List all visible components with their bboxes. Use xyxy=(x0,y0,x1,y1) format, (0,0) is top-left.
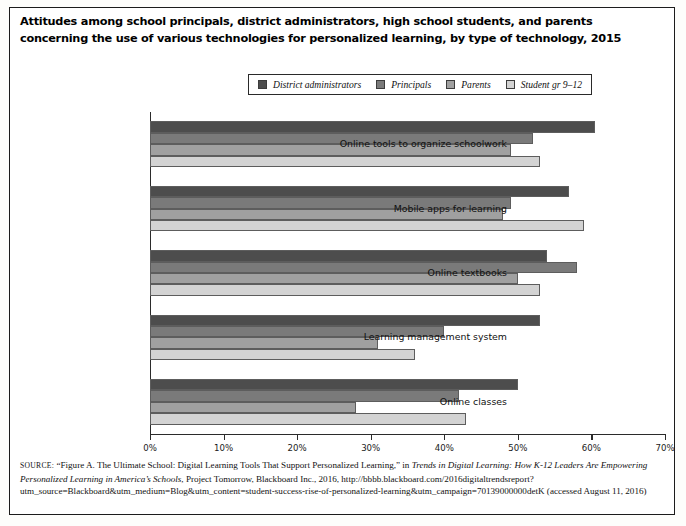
x-axis-tick-label: 40% xyxy=(435,443,454,453)
x-axis-tick-label: 30% xyxy=(361,443,380,453)
bar-4 xyxy=(150,156,540,167)
legend-item-label: Principals xyxy=(391,79,431,90)
legend-swatch-icon xyxy=(376,80,385,89)
source-text-a: “Figure A. The Ultimate School: Digital … xyxy=(56,460,411,470)
legend-item-label: District administrators xyxy=(273,79,361,90)
x-axis-tick-label: 10% xyxy=(214,443,233,453)
bar-1 xyxy=(150,250,547,261)
bar-1 xyxy=(150,379,518,390)
bar-2 xyxy=(150,390,459,401)
chart-legend: District administratorsPrincipalsParents… xyxy=(248,74,592,95)
bar-4 xyxy=(150,413,466,424)
page-title: Attitudes among school principals, distr… xyxy=(20,14,645,47)
legend-item-label: Parents xyxy=(461,79,491,90)
category-label: Learning management system xyxy=(364,331,507,342)
source-note: SOURCE: “Figure A. The Ultimate School: … xyxy=(20,459,652,498)
bar-1 xyxy=(150,315,540,326)
bar-2 xyxy=(150,262,577,273)
bar-group xyxy=(150,370,665,434)
legend-item: Principals xyxy=(376,79,431,90)
category-label: Online tools to organize schoolwork xyxy=(340,138,507,149)
x-axis-tick xyxy=(371,434,372,440)
legend-item: Student gr 9–12 xyxy=(506,79,582,90)
x-axis-tick xyxy=(224,434,225,440)
x-axis-tick xyxy=(297,434,298,440)
x-axis-tick-label: 50% xyxy=(508,443,527,453)
x-axis-tick xyxy=(518,434,519,440)
bar-3 xyxy=(150,337,378,348)
bar-group xyxy=(150,241,665,305)
x-axis-tick-label: 20% xyxy=(288,443,307,453)
bar-4 xyxy=(150,349,415,360)
legend-swatch-icon xyxy=(446,80,455,89)
x-axis-tick xyxy=(665,434,666,440)
legend-item: District administrators xyxy=(258,79,361,90)
legend-item: Parents xyxy=(446,79,491,90)
x-axis-line xyxy=(150,434,665,435)
bar-4 xyxy=(150,220,584,231)
figure-container: Attitudes among school principals, distr… xyxy=(0,0,686,526)
bar-1 xyxy=(150,121,595,132)
bar-1 xyxy=(150,186,569,197)
x-axis-tick-label: 60% xyxy=(582,443,601,453)
x-axis-tick xyxy=(444,434,445,440)
bar-3 xyxy=(150,402,356,413)
plot-area: 0%10%20%30%40%50%60%70%Online tools to o… xyxy=(150,112,665,434)
bar-4 xyxy=(150,284,540,295)
x-axis-tick-label: 0% xyxy=(143,443,157,453)
legend-item-label: Student gr 9–12 xyxy=(521,79,582,90)
x-axis-tick xyxy=(591,434,592,440)
legend-swatch-icon xyxy=(258,80,267,89)
x-axis-tick-label: 70% xyxy=(655,443,674,453)
category-label: Online classes xyxy=(440,396,507,407)
legend-swatch-icon xyxy=(506,80,515,89)
category-label: Mobile apps for learning xyxy=(394,203,507,214)
category-label: Online textbooks xyxy=(428,267,507,278)
source-prefix: SOURCE: xyxy=(20,461,54,470)
x-axis-tick xyxy=(150,434,151,440)
